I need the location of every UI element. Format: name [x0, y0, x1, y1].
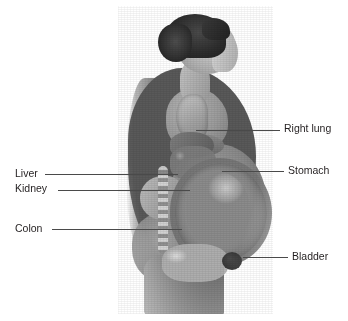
leader-line-bladder — [243, 257, 288, 258]
spine-organ — [158, 166, 168, 254]
anatomical-figure: Right lung Stomach Liver Kidney Colon Bl… — [0, 0, 348, 321]
fetus-figure — [186, 172, 250, 246]
bangs-shape — [202, 18, 230, 40]
label-stomach: Stomach — [288, 164, 329, 176]
leader-line-liver — [45, 174, 178, 175]
pregnant-woman-photo — [118, 6, 273, 314]
label-kidney: Kidney — [15, 182, 47, 194]
leader-line-kidney — [58, 190, 190, 191]
ponytail-shape — [158, 24, 192, 62]
label-right-lung: Right lung — [284, 122, 331, 134]
bladder-organ — [222, 252, 242, 270]
pelvis-bones — [162, 244, 228, 282]
label-liver: Liver — [15, 167, 38, 179]
leader-line-colon — [52, 229, 182, 230]
leader-line-stomach — [222, 171, 284, 172]
label-colon: Colon — [15, 222, 42, 234]
leader-line-right-lung — [196, 130, 280, 131]
label-bladder: Bladder — [292, 250, 328, 262]
